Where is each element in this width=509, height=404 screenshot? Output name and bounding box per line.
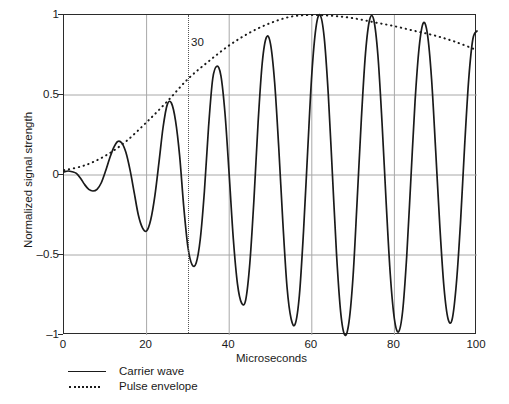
x-axis-tick-label: 40 <box>222 338 235 350</box>
plot-area: 30 <box>63 14 476 334</box>
legend-item-pulse-envelope: Pulse envelope <box>68 378 198 393</box>
pulse-start-marker-line <box>188 15 189 333</box>
y-axis-tick-mark <box>58 14 63 15</box>
y-axis-tick-mark <box>58 94 63 95</box>
gridlines-horizontal <box>64 95 477 255</box>
x-axis-tick-label: 100 <box>466 338 485 350</box>
x-axis-tick-label: 0 <box>60 338 66 350</box>
dotted-line-swatch-icon <box>68 380 106 391</box>
solid-line-swatch-icon <box>68 365 106 376</box>
y-axis-tick-mark <box>58 174 63 175</box>
legend-item-label: Pulse envelope <box>119 380 198 392</box>
pulse-start-marker-label: 30 <box>191 36 204 48</box>
chart-curves <box>64 15 477 335</box>
y-axis-tick-mark <box>58 254 63 255</box>
y-axis-ticks: 10.50–0.5–1 <box>14 14 59 334</box>
x-axis-tick-label: 80 <box>387 338 400 350</box>
legend-item-carrier-wave: Carrier wave <box>68 363 198 378</box>
chart-legend: Carrier wave Pulse envelope <box>68 363 198 393</box>
y-axis-tick-mark <box>58 334 63 335</box>
y-axis-title: Normalized signal strength <box>22 80 34 280</box>
x-axis-tick-label: 20 <box>139 338 152 350</box>
x-axis-tick-label: 60 <box>304 338 317 350</box>
y-axis-tick-label: 1 <box>19 8 59 20</box>
chart-figure: 30 10.50–0.5–1 020406080100 Microseconds… <box>0 0 509 404</box>
legend-item-label: Carrier wave <box>119 365 184 377</box>
x-axis-title-text: Microseconds <box>236 352 307 364</box>
